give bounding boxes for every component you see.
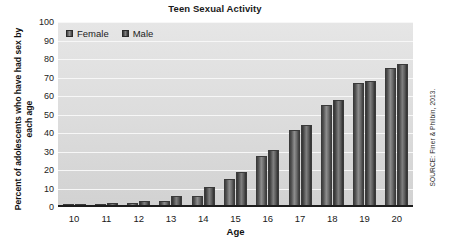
bar-group [187,22,219,205]
x-axis-title: Age [58,226,413,237]
y-axis-tick-label: 0 [26,202,54,212]
bar-male-age-12 [139,201,150,205]
bar-female-age-15 [224,179,235,205]
bar-male-age-10 [75,204,86,205]
x-axis-tick-label: 16 [253,213,283,224]
bar-male-age-17 [301,125,312,205]
x-axis-tick-label: 11 [91,213,121,224]
bar-group [316,22,348,205]
y-axis-tick-label: 100 [26,17,54,27]
bar-group [219,22,251,205]
bar-male-age-11 [107,203,118,205]
bar-male-age-13 [171,196,182,205]
legend-label-male: Male [133,28,154,39]
x-axis-tick-label: 20 [382,213,412,224]
bar-male-age-18 [333,100,344,205]
y-axis-tick-label: 80 [26,54,54,64]
bar-series-container [58,22,413,205]
legend-item-female: Female [66,28,109,39]
y-axis-tick-label: 60 [26,91,54,101]
y-axis-tick-label: 30 [26,147,54,157]
bar-group [90,22,122,205]
bar-male-age-15 [236,172,247,205]
x-axis-tick-labels: 1011121314151617181920 [58,210,413,224]
bar-male-age-19 [365,81,376,205]
y-axis-tick-label: 40 [26,128,54,138]
x-axis-tick-label: 19 [350,213,380,224]
chart-legend: Female Male [66,28,153,39]
bar-female-age-13 [159,201,170,205]
legend-label-female: Female [77,28,109,39]
x-axis-tick-label: 12 [124,213,154,224]
source-note: SOURCE: Finer & Philbin, 2013. [429,57,436,187]
y-axis-tick-label: 10 [26,184,54,194]
bar-female-age-18 [321,105,332,205]
legend-item-male: Male [122,28,154,39]
chart-title: Teen Sexual Activity [0,3,430,14]
y-axis-tick-label: 90 [26,36,54,46]
x-axis-tick-label: 15 [221,213,251,224]
plot-area [58,22,413,207]
x-axis-tick-label: 13 [156,213,186,224]
y-axis-tick-labels: 1009080706050403020100 [26,22,54,207]
bar-group [252,22,284,205]
bar-group [155,22,187,205]
bar-female-age-16 [256,156,267,205]
bar-female-age-12 [127,203,138,205]
bar-group [381,22,413,205]
bar-female-age-10 [63,204,74,205]
bar-group [123,22,155,205]
x-axis-tick-label: 10 [59,213,89,224]
y-axis-tick-label: 70 [26,73,54,83]
chart-figure: Teen Sexual Activity Percent of adolesce… [0,0,449,250]
bar-group [58,22,90,205]
x-axis-tick-label: 14 [188,213,218,224]
legend-swatch-female-icon [66,30,73,37]
bar-female-age-20 [385,68,396,205]
x-axis-tick-label: 18 [317,213,347,224]
bar-female-age-11 [95,204,106,205]
y-axis-tick-label: 50 [26,110,54,120]
bar-group [284,22,316,205]
bar-male-age-14 [204,187,215,206]
bar-female-age-17 [289,130,300,205]
bar-male-age-20 [397,64,408,205]
bar-female-age-14 [192,196,203,205]
y-axis-tick-label: 20 [26,165,54,175]
legend-swatch-male-icon [122,30,129,37]
bar-male-age-16 [268,150,279,205]
bar-group [348,22,380,205]
bar-female-age-19 [353,83,364,205]
x-axis-tick-label: 17 [285,213,315,224]
